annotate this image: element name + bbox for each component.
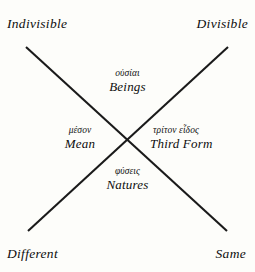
corner-label-different: Different [7,246,58,262]
corner-label-same: Same [216,246,246,262]
chiasmus-diagram: Indivisible Divisible Different Same οὐσ… [0,0,255,272]
quadrant-label-third-form: τρίτον εἶδος Third Form [150,126,246,150]
quadrant-greek-meson: μέσον [44,126,116,136]
quadrant-english-beings: Beings [0,80,255,93]
corner-label-divisible: Divisible [197,16,248,32]
quadrant-label-beings: οὐσίαι Beings [0,69,255,93]
quadrant-greek-triton-eidos: τρίτον εἶδος [150,126,246,136]
corner-label-indivisible: Indivisible [7,16,67,32]
quadrant-greek-ousiai: οὐσίαι [0,69,255,79]
quadrant-label-mean: μέσον Mean [44,126,116,150]
quadrant-english-natures: Natures [0,178,255,191]
quadrant-english-third-form: Third Form [150,137,246,150]
quadrant-label-natures: φύσεις Natures [0,167,255,191]
quadrant-greek-physeis: φύσεις [0,167,255,177]
quadrant-english-mean: Mean [44,137,116,150]
